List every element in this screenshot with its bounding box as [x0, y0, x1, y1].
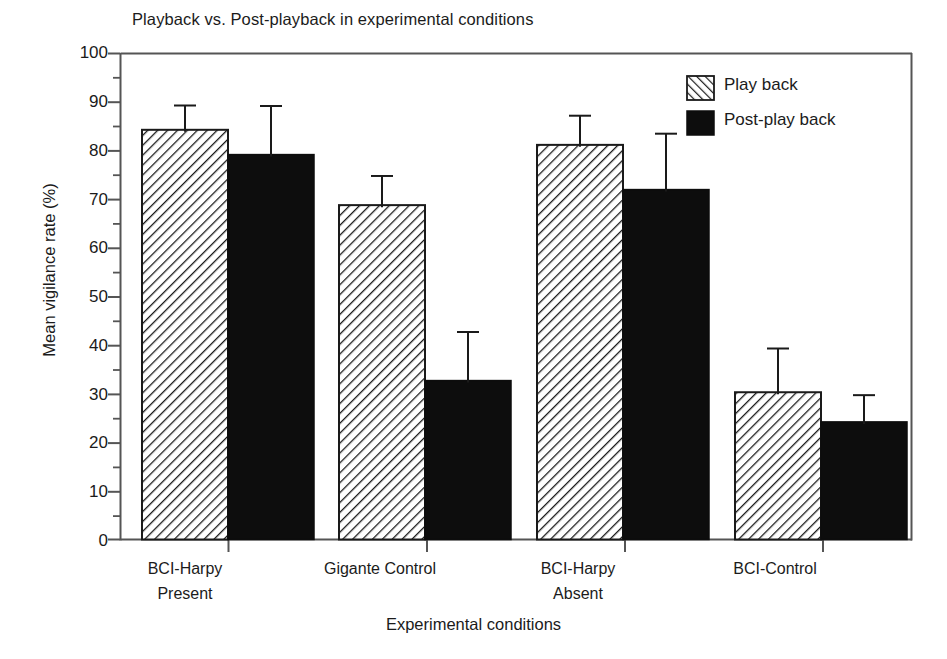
- bar-postplayback-3: [623, 190, 709, 540]
- bar-playback-1: [142, 130, 228, 540]
- bars-layer: [142, 106, 907, 540]
- error-bar-postplayback-4: [853, 395, 875, 424]
- error-bar-postplayback-2: [457, 332, 479, 383]
- bar-playback-4: [735, 392, 821, 539]
- bar-playback-3: [537, 145, 623, 540]
- bar-playback-2: [339, 205, 425, 539]
- plot-area: [0, 0, 947, 659]
- bar-postplayback-2: [425, 381, 511, 540]
- bar-postplayback-4: [821, 422, 907, 540]
- x-axis-ticks: [229, 540, 824, 552]
- error-bar-postplayback-1: [260, 106, 282, 157]
- legend-swatch-postplayback: [687, 111, 714, 135]
- error-bar-playback-2: [371, 176, 393, 207]
- error-bar-playback-1: [174, 106, 196, 132]
- error-bar-playback-4: [767, 349, 789, 395]
- legend-swatch-playback: [687, 76, 714, 100]
- bar-postplayback-1: [228, 155, 314, 540]
- chart-figure: Playback vs. Post-playback in experiment…: [0, 0, 947, 659]
- error-bar-playback-3: [569, 116, 591, 147]
- error-bar-postplayback-3: [655, 134, 677, 192]
